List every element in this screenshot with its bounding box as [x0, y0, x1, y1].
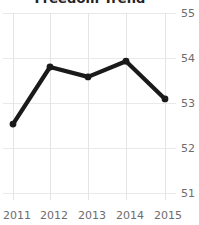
data-line-freedom-trend	[13, 61, 165, 124]
x-axis-tick-labels: 2011 2012 2013 2014 2015	[3, 209, 182, 222]
x-tick-label-2011: 2011	[3, 209, 31, 222]
data-point-2013	[85, 74, 92, 81]
y-tick-label-55: 55	[181, 7, 195, 20]
x-tick-label-2012: 2012	[40, 209, 68, 222]
x-tick-label-2015: 2015	[154, 209, 182, 222]
vertical-gridlines	[13, 13, 165, 200]
data-point-2011	[10, 121, 17, 128]
y-tick-label-53: 53	[181, 97, 195, 110]
y-tick-label-51: 51	[181, 187, 195, 200]
chart-container: Freedom Trend 55 54 53	[0, 0, 199, 225]
x-tick-label-2013: 2013	[78, 209, 106, 222]
y-tick-label-52: 52	[181, 142, 195, 155]
y-tick-label-54: 54	[181, 52, 195, 65]
line-chart-plot: 55 54 53 52 51 2011 2012 2013 2014 2015	[0, 0, 199, 225]
x-tick-label-2014: 2014	[116, 209, 144, 222]
data-point-2014	[123, 58, 130, 65]
data-point-2012	[47, 64, 54, 71]
y-axis-tick-labels: 55 54 53 52 51	[181, 7, 195, 200]
data-point-2015	[162, 96, 169, 103]
